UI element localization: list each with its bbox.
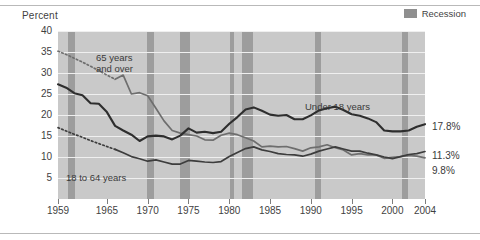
y-axis-title: Percent: [22, 10, 58, 21]
series-line: [115, 75, 425, 158]
x-axis-tick: [392, 199, 393, 204]
recession-legend-swatch: [404, 9, 417, 18]
x-axis-tick: [148, 199, 149, 204]
y-axis-tick-label: 35: [22, 46, 52, 57]
y-axis-tick-label: 25: [22, 88, 52, 99]
x-axis-tick: [229, 199, 230, 204]
series-line: [58, 128, 115, 150]
y-axis-tick-label: 10: [22, 151, 52, 162]
legend: Recession: [404, 8, 466, 19]
top-divider: [0, 5, 480, 6]
y-axis-tick-label: 20: [22, 109, 52, 120]
y-axis-tick-label: 15: [22, 130, 52, 141]
end-label-18-to-64: 11.3%: [432, 150, 460, 161]
x-axis-tick: [311, 199, 312, 204]
y-axis-tick-label: 5: [22, 172, 52, 183]
series-label-under-18: Under 18 years: [305, 101, 370, 112]
x-axis-tick-label: 1995: [332, 205, 372, 216]
end-label-65-and-over: 9.8%: [432, 165, 455, 176]
recession-legend-label: Recession: [422, 8, 466, 19]
series-line: [115, 147, 425, 164]
x-axis-tick-label: 1990: [291, 205, 331, 216]
x-axis-tick: [425, 199, 426, 204]
y-axis-tick-label: 30: [22, 67, 52, 78]
x-axis-tick-label: 1959: [38, 205, 78, 216]
x-axis-tick-label: 1965: [87, 205, 127, 216]
x-axis-tick-label: 2004: [405, 205, 445, 216]
series-line: [58, 84, 425, 141]
y-axis-tick-label: 40: [22, 25, 52, 36]
x-axis-tick: [58, 199, 59, 204]
x-axis-tick-label: 1985: [250, 205, 290, 216]
x-axis-tick: [270, 199, 271, 204]
x-axis-tick: [107, 199, 108, 204]
x-axis-tick-label: 1975: [168, 205, 208, 216]
series-label-65-and-over: 65 yearsand over: [96, 52, 133, 74]
x-axis-tick-label: 1980: [209, 205, 249, 216]
end-label-under-18: 17.8%: [432, 121, 460, 132]
bottom-divider: [0, 233, 480, 234]
series-label-18-to-64: 18 to 64 years: [66, 172, 126, 183]
x-axis-tick: [188, 199, 189, 204]
x-axis-tick-label: 1970: [128, 205, 168, 216]
poverty-rate-chart-figure: Percent Recession 403530252015105 195919…: [0, 0, 480, 240]
x-axis-tick: [352, 199, 353, 204]
